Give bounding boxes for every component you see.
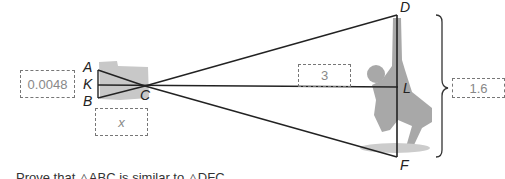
label-point-b: B [83,94,92,108]
measurement-ab: 0.0048 [20,70,75,98]
skater-silhouette [360,18,432,153]
label-point-l: L [403,81,411,95]
label-point-k: K [83,77,92,91]
caption-text: Prove that △ABC is similar to △DFC. [16,170,228,179]
label-point-a: A [83,60,92,74]
measurement-kc: x [95,108,148,136]
brace [436,15,448,157]
measurement-df: 1.6 [452,78,505,98]
label-point-c: C [140,88,150,102]
label-point-d: D [400,0,410,14]
measurement-cl: 3 [298,64,351,87]
diagram-canvas [0,0,505,179]
label-point-f: F [400,158,409,172]
